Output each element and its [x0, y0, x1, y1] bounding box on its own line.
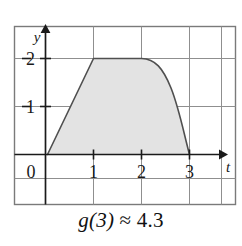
caption-function-text: g(3) [78, 208, 114, 232]
y-axis-label: y [32, 29, 41, 45]
y-tick-label-2: 2 [26, 49, 35, 69]
figure-caption: g(3) ≈ 4.3 [0, 208, 242, 233]
x-tick-label-2: 2 [137, 162, 146, 182]
area-under-curve-figure: 2 1 0 1 2 3 y t g(3) ≈ 4.3 [0, 0, 242, 246]
x-tick-label-1: 1 [89, 162, 98, 182]
x-tick-label-3: 3 [185, 162, 194, 182]
caption-value-text: ≈ 4.3 [114, 208, 163, 232]
x-tick-label-0: 0 [27, 162, 36, 182]
y-tick-label-1: 1 [26, 97, 35, 117]
